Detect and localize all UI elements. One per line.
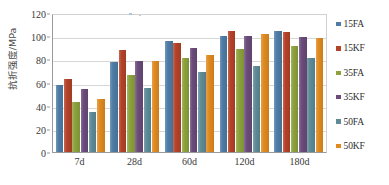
legend-swatch-icon: [336, 144, 341, 149]
bar-35KF-120d[interactable]: [244, 36, 252, 152]
bar-group-180d: [271, 15, 326, 152]
bar-slot: [97, 15, 105, 152]
bar-50KF-7d[interactable]: [97, 99, 105, 152]
y-tick-mark-120: [47, 14, 50, 15]
y-tick-mark-80: [47, 60, 50, 61]
bar-slot: [316, 15, 324, 152]
legend-swatch-icon: [336, 95, 341, 100]
legend-item-35KF[interactable]: 35KF: [336, 91, 389, 103]
bar-group-28d: [108, 15, 163, 152]
bar-15FA-180d[interactable]: [274, 31, 282, 152]
legend-swatch-icon: [336, 71, 341, 76]
bar-slot: [127, 15, 135, 152]
stray-artifact-icon: [129, 13, 132, 15]
bar-15KF-60d[interactable]: [173, 43, 181, 152]
bar-slot: [206, 15, 214, 152]
legend: 15FA15KF35FA35KF50FA50KF: [336, 18, 389, 152]
y-axis-title: 抗折强度/MPa: [5, 17, 19, 101]
bar-50KF-60d[interactable]: [206, 55, 214, 152]
bar-15FA-7d[interactable]: [56, 85, 64, 152]
bar-50KF-28d[interactable]: [152, 61, 160, 153]
bar-50FA-120d[interactable]: [253, 66, 261, 152]
bar-slot: [274, 15, 282, 152]
bar-slot: [89, 15, 97, 152]
x-tick-label-60d: 60d: [162, 156, 217, 167]
bar-50FA-180d[interactable]: [307, 58, 315, 152]
bar-slot: [119, 15, 127, 152]
bar-slot: [283, 15, 291, 152]
y-tick-mark-60: [47, 83, 50, 84]
y-tick-label-80: 80: [36, 55, 46, 66]
legend-label: 15KF: [344, 43, 365, 53]
plot-area: [52, 14, 327, 153]
bar-group-60d: [162, 15, 217, 152]
bar-group-120d: [217, 15, 272, 152]
y-tick-label-0: 0: [41, 148, 46, 159]
y-tick-mark-40: [47, 106, 50, 107]
legend-label: 15FA: [344, 19, 365, 29]
y-tick-mark-20: [47, 129, 50, 130]
legend-label: 50KF: [344, 141, 365, 151]
bar-15FA-120d[interactable]: [220, 36, 228, 152]
y-tick-mark-100: [47, 37, 50, 38]
bar-50KF-120d[interactable]: [261, 34, 269, 152]
legend-item-15FA[interactable]: 15FA: [336, 18, 389, 30]
legend-item-35FA[interactable]: 35FA: [336, 67, 389, 79]
y-tick-label-120: 120: [31, 9, 46, 20]
x-tick-label-180d: 180d: [272, 156, 327, 167]
bar-35FA-120d[interactable]: [236, 49, 244, 152]
bar-slot: [198, 15, 206, 152]
bar-50FA-7d[interactable]: [89, 112, 97, 152]
bar-35KF-180d[interactable]: [299, 37, 307, 152]
legend-swatch-icon: [336, 22, 341, 27]
y-tick-label-100: 100: [31, 32, 46, 43]
bar-slot: [190, 15, 198, 152]
bar-slot: [56, 15, 64, 152]
bar-15KF-180d[interactable]: [283, 32, 291, 152]
bar-35FA-60d[interactable]: [182, 58, 190, 152]
bar-slot: [135, 15, 143, 152]
bar-50FA-60d[interactable]: [198, 72, 206, 152]
bar-15FA-28d[interactable]: [110, 62, 118, 152]
bar-15FA-60d[interactable]: [165, 41, 173, 152]
bar-15KF-28d[interactable]: [119, 50, 127, 153]
y-tick-mark-0: [47, 153, 50, 154]
bar-slot: [182, 15, 190, 152]
bar-15KF-7d[interactable]: [64, 79, 72, 152]
y-tick-label-60: 60: [36, 78, 46, 89]
bar-slot: [64, 15, 72, 152]
legend-swatch-icon: [336, 119, 341, 124]
bar-35KF-60d[interactable]: [190, 48, 198, 152]
legend-item-50KF[interactable]: 50KF: [336, 140, 389, 152]
y-axis-tick-labels: 020406080100120: [22, 14, 50, 153]
y-tick-label-40: 40: [36, 101, 46, 112]
bar-slot: [165, 15, 173, 152]
bar-50KF-180d[interactable]: [316, 38, 324, 152]
legend-item-50FA[interactable]: 50FA: [336, 116, 389, 128]
legend-label: 35FA: [344, 68, 365, 78]
legend-swatch-icon: [336, 46, 341, 51]
bar-slot: [244, 15, 252, 152]
bar-35FA-7d[interactable]: [72, 102, 80, 152]
bar-35KF-7d[interactable]: [81, 89, 89, 152]
bar-50FA-28d[interactable]: [144, 88, 152, 152]
legend-label: 50FA: [344, 117, 365, 127]
bar-slot: [261, 15, 269, 152]
bar-35KF-28d[interactable]: [135, 61, 143, 153]
legend-label: 35KF: [344, 92, 365, 102]
bar-35FA-180d[interactable]: [291, 46, 299, 152]
bar-slot: [299, 15, 307, 152]
stray-artifact-2-icon: [139, 15, 141, 16]
y-tick-label-20: 20: [36, 124, 46, 135]
bar-group-7d: [53, 15, 108, 152]
legend-item-15KF[interactable]: 15KF: [336, 42, 389, 54]
bar-slot: [72, 15, 80, 152]
bar-slot: [144, 15, 152, 152]
bar-slot: [307, 15, 315, 152]
x-tick-label-120d: 120d: [217, 156, 272, 167]
bar-slot: [81, 15, 89, 152]
bar-15KF-120d[interactable]: [228, 31, 236, 152]
bar-slot: [220, 15, 228, 152]
bar-35FA-28d[interactable]: [127, 75, 135, 152]
x-tick-label-28d: 28d: [107, 156, 162, 167]
